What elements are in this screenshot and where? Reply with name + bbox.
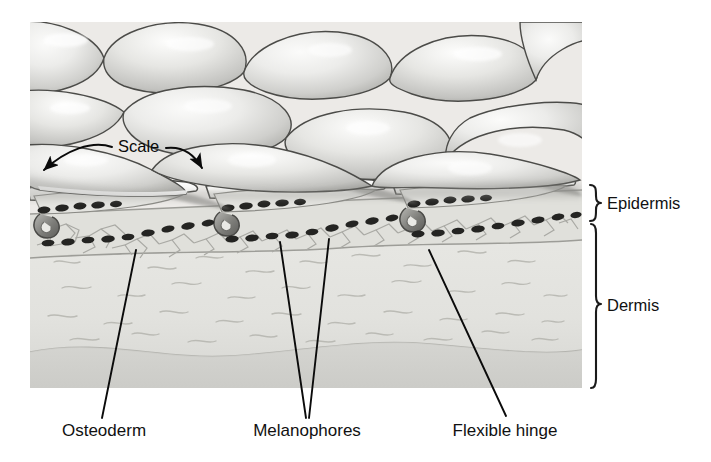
epidermis-bracket <box>590 185 601 221</box>
reptile-skin-diagram: Scale Osteoderm Melanophores Flexible hi… <box>0 0 711 462</box>
epidermis-label: Epidermis <box>607 194 680 212</box>
figure-root: Scale Osteoderm Melanophores Flexible hi… <box>0 0 711 462</box>
side-brackets: Epidermis Dermis <box>590 185 680 388</box>
flexible-hinge-label: Flexible hinge <box>453 421 558 440</box>
illustration-panel <box>10 21 596 388</box>
dermis-label: Dermis <box>607 296 659 314</box>
melanophores-label: Melanophores <box>253 421 361 440</box>
osteoderm-label: Osteoderm <box>62 421 146 440</box>
scale-label: Scale <box>118 137 159 155</box>
dermis-bracket <box>591 224 601 388</box>
paper-grain <box>30 22 582 388</box>
bottom-labels: Osteoderm Melanophores Flexible hinge <box>62 421 558 440</box>
